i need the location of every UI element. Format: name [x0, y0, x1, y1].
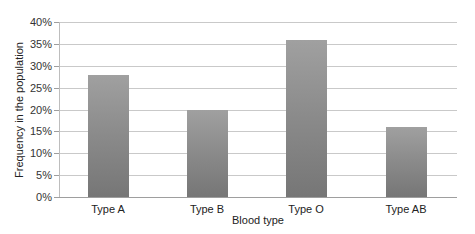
gridline [59, 44, 457, 45]
x-tick-label: Type A [58, 203, 158, 215]
bar-type-o [286, 40, 327, 198]
y-tick-label: 0% [2, 191, 52, 203]
y-tick-label: 5% [2, 169, 52, 181]
y-tick-label: 35% [2, 38, 52, 50]
y-tick-label: 15% [2, 125, 52, 137]
bar-type-a [88, 75, 129, 198]
plot-area [59, 22, 457, 197]
y-tick-label: 10% [2, 147, 52, 159]
gridline [59, 22, 457, 23]
y-tick-label: 30% [2, 60, 52, 72]
y-tick-label: 25% [2, 82, 52, 94]
y-tick-label: 20% [2, 104, 52, 116]
y-axis-line [59, 22, 60, 197]
x-axis-line [59, 197, 457, 198]
bar-type-b [187, 110, 228, 198]
bar-type-ab [386, 127, 427, 197]
x-tick-label: Type AB [356, 203, 456, 215]
x-axis-title: Blood type [208, 214, 308, 226]
bar-chart: Frequency in the population 40% 35% 30% … [0, 0, 475, 234]
gridline [59, 66, 457, 67]
y-tick-label: 40% [2, 16, 52, 28]
